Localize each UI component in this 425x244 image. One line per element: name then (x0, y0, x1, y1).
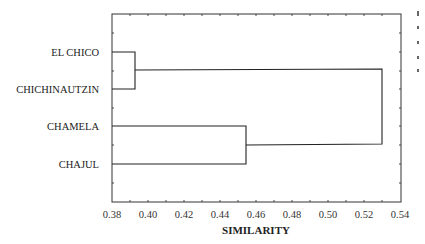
x-tick-label: 0.54 (391, 209, 410, 220)
dendrogram-links (112, 52, 382, 164)
link-chamela-chajul (112, 126, 246, 164)
x-ticks (130, 14, 382, 202)
x-tick-label: 0.50 (319, 209, 337, 220)
plot-frame (112, 14, 401, 202)
x-tick-label: 0.40 (139, 209, 157, 220)
link-elchico-chichinautzin (112, 52, 135, 89)
dendrogram-chart: EL CHICO CHICHINAUTZIN CHAMELA CHAJUL 0.… (0, 0, 425, 244)
x-tick-label: 0.46 (247, 209, 265, 220)
leaf-labels: EL CHICO CHICHINAUTZIN CHAMELA CHAJUL (16, 47, 99, 170)
cropped-text-fragment (417, 11, 419, 72)
x-tick-labels: 0.38 0.40 0.42 0.44 0.46 0.48 0.50 0.52 … (103, 209, 410, 220)
link-root (135, 69, 382, 145)
y-ticks (112, 33, 401, 183)
x-tick-label: 0.38 (103, 209, 121, 220)
leaf-label-el-chico: EL CHICO (51, 47, 99, 58)
leaf-label-chichinautzin: CHICHINAUTZIN (16, 84, 99, 95)
x-tick-label: 0.44 (211, 209, 230, 220)
x-tick-label: 0.48 (283, 209, 301, 220)
x-tick-label: 0.42 (175, 209, 193, 220)
x-axis-title: SIMILARITY (222, 224, 290, 236)
x-tick-label: 0.52 (355, 209, 373, 220)
leaf-label-chamela: CHAMELA (47, 121, 99, 132)
leaf-label-chajul: CHAJUL (59, 159, 99, 170)
